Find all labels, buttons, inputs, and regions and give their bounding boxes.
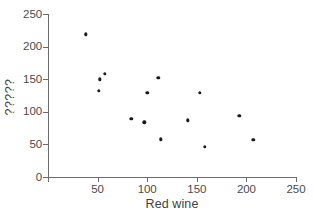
y-axis-tick bbox=[43, 79, 48, 80]
x-axis-tick-label: 150 bbox=[177, 184, 217, 195]
x-axis-tick-label: 250 bbox=[276, 184, 313, 195]
x-axis-label: Red wine bbox=[48, 197, 296, 211]
x-axis-tick bbox=[98, 177, 99, 182]
x-axis-tick bbox=[246, 177, 247, 182]
data-point bbox=[203, 145, 206, 148]
y-axis-line bbox=[48, 14, 49, 178]
data-point bbox=[97, 89, 100, 92]
data-point bbox=[143, 121, 146, 124]
y-axis-label: ????? bbox=[3, 67, 17, 127]
x-axis-tick-label: 200 bbox=[226, 184, 266, 195]
x-axis-tick-label: 50 bbox=[78, 184, 118, 195]
data-point bbox=[84, 33, 87, 36]
data-point bbox=[130, 117, 133, 120]
scatter-plot-figure: 050100150200250 050100150200250 Red wine… bbox=[0, 0, 313, 218]
data-point bbox=[98, 77, 101, 80]
y-axis-tick bbox=[43, 112, 48, 113]
y-axis-tick bbox=[43, 14, 48, 15]
data-point bbox=[238, 114, 241, 117]
y-axis-tick bbox=[43, 144, 48, 145]
plot-area bbox=[48, 14, 296, 177]
x-axis-tick bbox=[197, 177, 198, 182]
x-axis-tick bbox=[48, 177, 49, 182]
x-axis-tick bbox=[147, 177, 148, 182]
data-point bbox=[252, 138, 255, 141]
data-point bbox=[156, 76, 159, 79]
data-point bbox=[198, 91, 201, 94]
x-axis-tick-label: 100 bbox=[127, 184, 167, 195]
data-point bbox=[103, 72, 106, 75]
x-axis-tick bbox=[296, 177, 297, 182]
data-point bbox=[186, 119, 189, 122]
data-point bbox=[145, 91, 148, 94]
x-axis-line bbox=[48, 177, 297, 178]
data-point bbox=[159, 137, 162, 140]
y-axis-tick bbox=[43, 47, 48, 48]
